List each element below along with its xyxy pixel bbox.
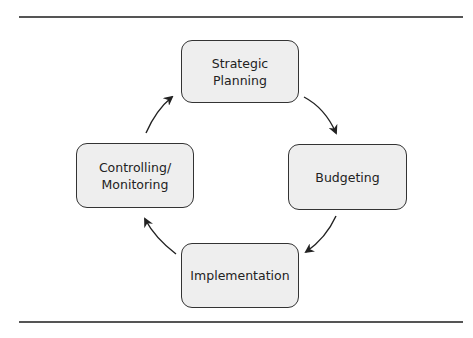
arrow-planning-to-budgeting <box>304 97 336 133</box>
cycle-arrows <box>0 0 473 338</box>
arrow-controlling-to-planning <box>146 97 172 133</box>
arrow-budgeting-to-implementation <box>306 216 336 252</box>
arrow-implementation-to-controlling <box>145 219 176 254</box>
bottom-rule <box>19 321 463 323</box>
